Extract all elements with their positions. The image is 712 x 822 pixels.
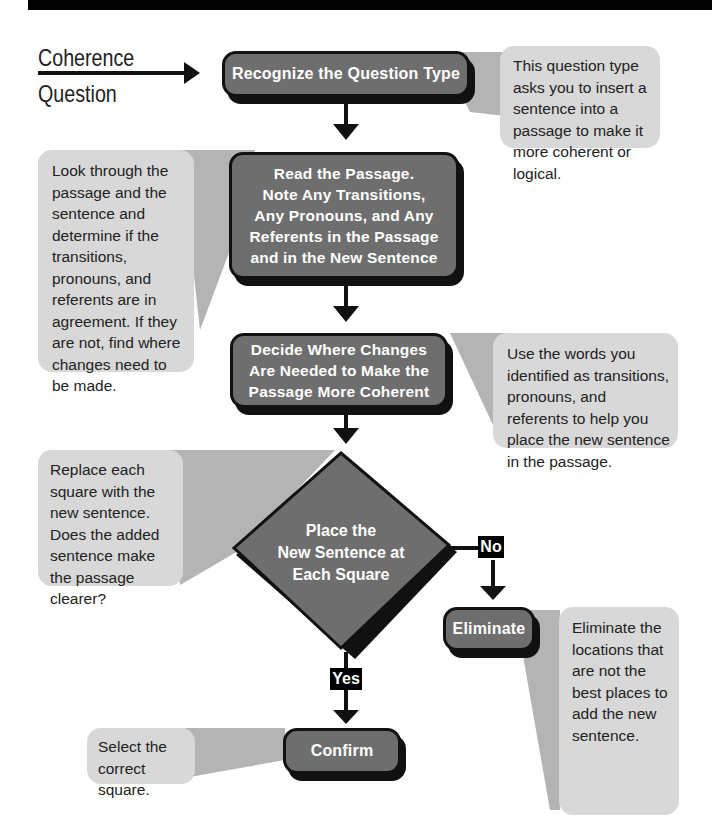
branch-yes-label: Yes (330, 668, 362, 690)
arrow-down-icon (333, 124, 359, 140)
start-label-line2: Question (38, 80, 117, 108)
step-eliminate-label: Eliminate (453, 620, 526, 638)
step-decide: Decide Where Changes Are Needed to Make … (230, 333, 448, 408)
step-recognize-label: Recognize the Question Type (232, 65, 460, 83)
callout-eliminate: Eliminate the locations that are not the… (559, 607, 679, 815)
step-place-label: Place the New Sentence at Each Square (260, 520, 422, 586)
step-decide-label: Decide Where Changes Are Needed to Make … (249, 339, 430, 402)
step-read: Read the Passage. Note Any Transitions, … (229, 152, 459, 279)
callout-confirm: Select the correct square. (87, 728, 195, 784)
arrow-down-icon (333, 710, 359, 724)
start-label-line1: Coherence (38, 44, 134, 72)
step-confirm-label: Confirm (311, 742, 374, 760)
callout-place: Replace each square with the new sentenc… (38, 450, 183, 586)
callout-read: Look through the passage and the sentenc… (38, 150, 194, 372)
branch-no-label: No (478, 536, 504, 558)
step-recognize: Recognize the Question Type (222, 51, 470, 97)
arrow-down-icon (480, 586, 506, 600)
step-read-label: Read the Passage. Note Any Transitions, … (249, 163, 438, 268)
arrow-down-icon (333, 428, 359, 444)
arrow-right-icon (184, 62, 200, 84)
callout-decide: Use the words you identified as transiti… (493, 333, 678, 448)
callout-recognize: This question type asks you to insert a … (500, 46, 660, 148)
step-eliminate: Eliminate (443, 607, 535, 651)
step-confirm: Confirm (283, 728, 401, 774)
arrow-down-icon (333, 306, 359, 322)
